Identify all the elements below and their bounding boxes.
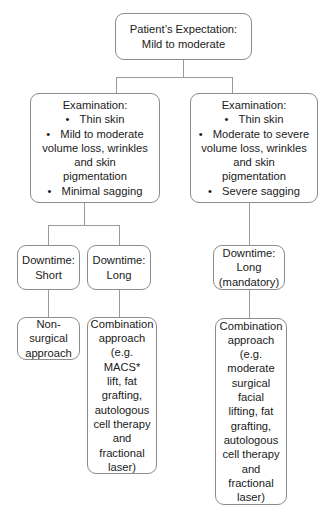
downtime-value: Long <box>237 260 262 274</box>
finding-item: •Mild to moderate volume loss, wrinkles … <box>42 127 148 184</box>
non-surgical-approach-box: Non-surgical approach <box>17 317 80 360</box>
downtime-long-box: Downtime: Long <box>87 245 151 290</box>
finding-item: •Thin skin <box>199 112 309 126</box>
downtime-label: Downtime: <box>93 253 146 267</box>
finding-item: •Moderate to severe volume loss, wrinkle… <box>199 127 309 184</box>
bullet-icon: • <box>66 112 80 126</box>
bullet-icon: • <box>48 184 62 198</box>
connector-root-split <box>116 77 233 78</box>
examination-box-mild: Examination: •Thin skin •Mild to moderat… <box>30 93 160 203</box>
combination-approach-macs-box: Combination approach (e.g. MACS* lift, f… <box>87 317 157 474</box>
connector-to-left-exam <box>116 77 117 93</box>
downtime-long-mandatory-box: Downtime: Long (mandatory) <box>213 245 285 290</box>
downtime-label: Downtime: <box>22 253 75 267</box>
examination-heading: Examination: <box>222 98 287 112</box>
connector-to-downtime-short <box>48 225 49 245</box>
downtime-qualifier: (mandatory) <box>219 275 279 289</box>
examination-heading: Examination: <box>63 98 128 112</box>
finding-item: •Thin skin <box>42 112 148 126</box>
examination-findings-list: •Thin skin •Mild to moderate volume loss… <box>42 112 148 198</box>
downtime-value: Short <box>35 268 62 282</box>
downtime-short-box: Downtime: Short <box>17 245 80 290</box>
connector-right-exam-down <box>249 203 250 245</box>
finding-item: •Minimal sagging <box>42 184 148 198</box>
connector-short-to-nonsurgical <box>48 290 49 317</box>
connector-right-downtime-down <box>249 290 250 318</box>
bullet-icon: • <box>199 127 213 141</box>
downtime-value: Long <box>107 268 132 282</box>
patient-expectation-value: Mild to moderate <box>142 37 225 51</box>
examination-findings-list: •Thin skin •Moderate to severe volume lo… <box>199 112 309 198</box>
connector-to-downtime-long <box>119 225 120 245</box>
downtime-label: Downtime: <box>223 246 276 260</box>
patient-expectation-box: Patient’s Expectation: Mild to moderate <box>115 13 252 60</box>
connector-long-to-combination <box>119 290 120 317</box>
patient-expectation-title: Patient’s Expectation: <box>130 22 237 36</box>
combination-approach-surgical-box: Combination approach (e.g. moderate surg… <box>215 318 287 505</box>
bullet-icon: • <box>225 112 239 126</box>
examination-box-severe: Examination: •Thin skin •Moderate to sev… <box>190 93 318 203</box>
connector-left-exam-down <box>84 203 85 225</box>
bullet-icon: • <box>46 127 60 141</box>
connector-root-down <box>183 60 184 77</box>
connector-to-right-exam <box>232 77 233 93</box>
bullet-icon: • <box>208 184 222 198</box>
finding-item: •Severe sagging <box>199 184 309 198</box>
connector-left-downtime-split <box>48 225 119 226</box>
